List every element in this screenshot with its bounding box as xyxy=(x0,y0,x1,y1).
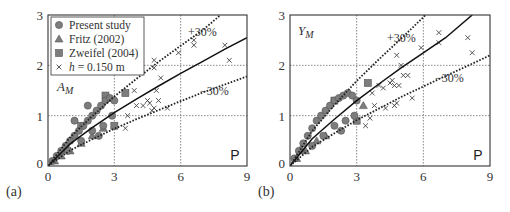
quantity-symbol: A xyxy=(56,79,65,94)
y-tick-label: 1 xyxy=(37,109,44,124)
circle-marker xyxy=(342,117,349,124)
y-tick-label: 3 xyxy=(279,8,286,23)
x-tick-label: 3 xyxy=(111,169,118,184)
legend-item-label: Present study xyxy=(69,19,131,32)
legend-item-label: Zweifel (2004) xyxy=(69,47,138,60)
square-marker xyxy=(364,79,371,86)
y-tick-label: 0 xyxy=(37,156,44,171)
x-marker xyxy=(158,76,163,81)
x-marker xyxy=(152,106,157,111)
y-tick-label: 1 xyxy=(279,109,286,124)
y-tick-label: 2 xyxy=(279,58,286,73)
x-tick-label: 0 xyxy=(287,169,294,184)
legend-h-value: = 0.150 m xyxy=(75,61,125,73)
x-marker xyxy=(227,58,232,63)
y-tick-label: 2 xyxy=(37,58,44,73)
quantity-label: AM xyxy=(56,79,74,96)
corner-p-label: P xyxy=(230,147,239,163)
triangle-marker xyxy=(359,102,367,109)
circle-marker xyxy=(100,122,107,129)
minus-30-label: −30% xyxy=(200,84,229,98)
panel-a: 03690123+30%−30%AMP(a)Present studyFritz… xyxy=(6,8,250,200)
x-tick-label: 3 xyxy=(353,169,360,184)
x-marker xyxy=(147,101,152,106)
quantity-subscript: M xyxy=(304,29,314,40)
x-marker xyxy=(192,43,197,48)
minus-30-label: −30% xyxy=(435,71,464,85)
circle-marker xyxy=(331,122,338,129)
corner-p-label: P xyxy=(473,147,482,163)
x-tick-label: 6 xyxy=(177,169,184,184)
x-tick-label: 0 xyxy=(45,169,52,184)
square-marker xyxy=(56,50,63,57)
y-tick-label: 3 xyxy=(37,8,44,23)
circle-marker xyxy=(71,117,78,124)
x-tick-label: 6 xyxy=(420,169,427,184)
x-marker xyxy=(372,103,377,108)
x-marker xyxy=(123,126,128,131)
figure: 03690123+30%−30%AMP(a)Present studyFritz… xyxy=(0,0,510,212)
panel-label: (a) xyxy=(6,184,22,200)
x-marker xyxy=(368,116,373,121)
x-marker xyxy=(222,43,227,48)
x-marker xyxy=(396,83,401,88)
x-marker xyxy=(390,78,395,83)
x-marker xyxy=(156,98,161,103)
x-marker xyxy=(394,53,399,58)
square-marker xyxy=(111,122,118,129)
legend-item-label: Fritz (2002) xyxy=(69,33,124,46)
quantity-subscript: M xyxy=(64,85,74,96)
legend: Present studyFritz (2002)Zweifel (2004)h… xyxy=(51,17,144,75)
x-marker xyxy=(141,103,146,108)
x-tick-label: 9 xyxy=(244,169,251,184)
y-tick-label: 0 xyxy=(279,156,286,171)
x-marker xyxy=(392,83,397,88)
x-marker xyxy=(134,103,139,108)
x-marker xyxy=(465,35,470,40)
panel-b: 03690123+30%−30%YMP(b) xyxy=(258,8,493,200)
circle-marker xyxy=(84,102,91,109)
x-marker xyxy=(419,45,424,50)
x-marker xyxy=(381,86,386,91)
circle-marker xyxy=(351,112,358,119)
x-marker xyxy=(470,50,475,55)
x-marker xyxy=(401,73,406,78)
x-marker xyxy=(132,88,137,93)
panel-label: (b) xyxy=(258,184,275,200)
circle-marker xyxy=(338,127,345,134)
x-tick-label: 9 xyxy=(487,169,494,184)
plus-30-label: +30% xyxy=(387,31,416,45)
x-marker xyxy=(436,30,441,35)
plus-30-label: +30% xyxy=(188,25,217,39)
quantity-label: YM xyxy=(298,23,314,40)
x-marker xyxy=(410,96,415,101)
x-marker xyxy=(152,58,157,63)
x-marker xyxy=(363,123,368,128)
legend-item-label: h = 0.150 m xyxy=(69,61,125,73)
x-marker xyxy=(394,101,399,106)
x-marker xyxy=(370,91,375,96)
x-marker xyxy=(405,73,410,78)
x-marker xyxy=(176,50,181,55)
x-marker xyxy=(383,106,388,111)
circle-marker xyxy=(55,21,62,28)
